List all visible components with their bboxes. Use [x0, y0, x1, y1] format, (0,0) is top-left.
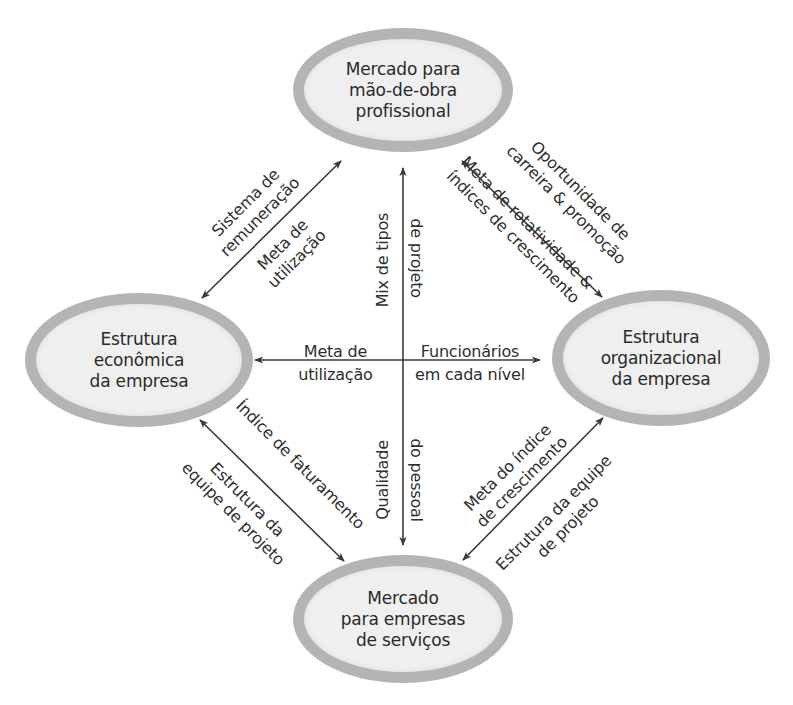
- node-labor-market: Mercado para mão-de-obra profissional: [293, 28, 513, 152]
- node-organizational-structure-label: Estrutura organizacional da empresa: [601, 327, 722, 390]
- diagram-canvas: Mercado para mão-de-obra profissional Es…: [0, 0, 793, 705]
- node-organizational-structure: Estrutura organizacional da empresa: [552, 290, 770, 426]
- node-labor-market-label: Mercado para mão-de-obra profissional: [346, 59, 460, 122]
- label-project-mix-1: Mix de tipos: [373, 210, 393, 310]
- node-services-market-label: Mercado para empresas de serviços: [341, 588, 465, 651]
- label-staff-quality-1: Qualidade: [373, 430, 393, 530]
- node-services-market: Mercado para empresas de serviços: [293, 555, 513, 683]
- label-utilization-target-h: Meta de utilização: [283, 340, 388, 386]
- label-project-mix-2: de projeto: [406, 208, 426, 308]
- label-staff-quality-2: do pessoal: [406, 430, 426, 530]
- node-economic-structure-label: Estrutura econômica da empresa: [90, 329, 189, 392]
- label-employees-per-level: Funcionários em cada nível: [405, 340, 535, 386]
- node-economic-structure: Estrutura econômica da empresa: [25, 293, 253, 427]
